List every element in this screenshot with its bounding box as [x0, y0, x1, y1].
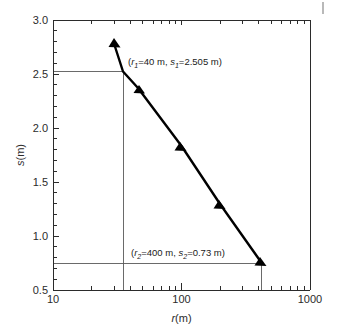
y-tick-label: 2.5: [33, 68, 48, 80]
y-tick-label: 1.0: [33, 230, 48, 242]
x-tick-label: 100: [172, 293, 190, 305]
point-2-annotation: (r2=400 m, s2=0.73 m): [131, 247, 225, 260]
y-tick-label: 1.5: [33, 176, 48, 188]
x-axis-title-unit: (m): [175, 312, 192, 324]
x-axis-title: r(m): [171, 312, 191, 324]
chart-figure: 3.0 2.5 2.0 1.5 1.0 0.5 10 100 1000 r(m)…: [0, 0, 337, 335]
y-tick-label: 3.0: [33, 14, 48, 26]
annot2-eq1: =400 m,: [141, 247, 178, 258]
x-tick-label: 10: [47, 293, 59, 305]
y-tick-label: 2.0: [33, 122, 48, 134]
chart-svg: 3.0 2.5 2.0 1.5 1.0 0.5 10 100 1000 r(m)…: [0, 0, 337, 335]
annot1-eq2: =2.505 m): [179, 56, 222, 67]
x-tick-label: 1000: [298, 293, 322, 305]
y-axis-title-unit: (m): [14, 144, 26, 161]
annot1-eq1: =40 m,: [138, 56, 170, 67]
figure-background: [0, 0, 337, 335]
annot2-eq2: =0.73 m): [187, 247, 225, 258]
y-tick-label: 0.5: [33, 284, 48, 296]
y-axis-title: s(m): [14, 144, 26, 166]
